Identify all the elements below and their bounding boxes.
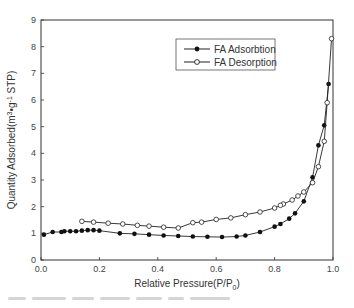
filled-circle-marker-icon bbox=[80, 228, 85, 233]
filled-circle-marker-icon bbox=[195, 47, 200, 52]
y-tick-label: 7 bbox=[31, 68, 36, 78]
filled-circle-marker-icon bbox=[302, 199, 307, 204]
open-circle-marker-icon bbox=[243, 212, 248, 217]
y-tick-label: 8 bbox=[31, 42, 36, 52]
open-circle-marker-icon bbox=[161, 225, 166, 230]
y-tick-label: 3 bbox=[31, 175, 36, 185]
filled-circle-marker-icon bbox=[205, 235, 210, 240]
filled-circle-marker-icon bbox=[272, 224, 277, 229]
x-tick-label: 0.2 bbox=[93, 264, 106, 274]
x-tick-label: 0.4 bbox=[152, 264, 165, 274]
filled-circle-marker-icon bbox=[147, 232, 152, 237]
filled-circle-marker-icon bbox=[258, 230, 263, 235]
filled-circle-marker-icon bbox=[316, 143, 321, 148]
filled-circle-marker-icon bbox=[243, 233, 248, 238]
cropped-caption-fragment bbox=[8, 297, 248, 302]
y-tick-label: 5 bbox=[31, 122, 36, 132]
filled-circle-marker-icon bbox=[293, 211, 298, 216]
y-tick-label: 1 bbox=[31, 228, 36, 238]
filled-circle-marker-icon bbox=[97, 228, 102, 233]
adsorption-line bbox=[44, 84, 329, 237]
filled-circle-marker-icon bbox=[176, 234, 181, 239]
filled-circle-marker-icon bbox=[161, 233, 166, 238]
y-tick-label: 6 bbox=[31, 95, 36, 105]
y-tick-label: 2 bbox=[31, 202, 36, 212]
open-circle-marker-icon bbox=[316, 164, 321, 169]
open-circle-marker-icon bbox=[120, 222, 125, 227]
legend-label-desorption: FA Desorption bbox=[214, 57, 277, 68]
open-circle-marker-icon bbox=[296, 194, 301, 199]
legend-label-adsorption: FA Adsorbtion bbox=[214, 44, 276, 55]
x-axis-title: Relative Pressure(P/P0) bbox=[134, 278, 240, 291]
legend: FA Adsorbtion FA Desorption bbox=[176, 39, 277, 70]
open-circle-marker-icon bbox=[147, 224, 152, 229]
open-circle-marker-icon bbox=[214, 217, 219, 222]
open-circle-marker-icon bbox=[290, 198, 295, 203]
filled-circle-marker-icon bbox=[85, 228, 90, 233]
filled-circle-marker-icon bbox=[118, 231, 123, 236]
x-tick-label: 0.6 bbox=[210, 264, 223, 274]
open-circle-marker-icon bbox=[176, 226, 181, 231]
open-circle-marker-icon bbox=[329, 36, 334, 41]
open-circle-marker-icon bbox=[80, 219, 85, 224]
filled-circle-marker-icon bbox=[132, 232, 137, 237]
x-tick-label: 1.0 bbox=[327, 264, 340, 274]
open-circle-marker-icon bbox=[322, 139, 327, 144]
filled-circle-marker-icon bbox=[68, 229, 73, 234]
y-axis-title: Quantity Adsorbed(m3•g-1 STP) bbox=[6, 71, 17, 210]
y-axis: 0123456789 bbox=[31, 15, 44, 265]
open-circle-marker-icon bbox=[258, 210, 263, 215]
filled-circle-marker-icon bbox=[42, 232, 47, 237]
open-circle-marker-icon bbox=[91, 220, 96, 225]
open-circle-marker-icon bbox=[229, 216, 234, 221]
open-circle-marker-icon bbox=[272, 206, 277, 211]
filled-circle-marker-icon bbox=[287, 216, 292, 221]
filled-circle-marker-icon bbox=[234, 234, 239, 239]
open-circle-marker-icon bbox=[325, 100, 330, 105]
open-circle-marker-icon bbox=[199, 220, 204, 225]
open-circle-marker-icon bbox=[310, 180, 315, 185]
filled-circle-marker-icon bbox=[91, 228, 96, 233]
y-tick-label: 4 bbox=[31, 148, 36, 158]
open-circle-marker-icon bbox=[135, 223, 140, 228]
open-circle-marker-icon bbox=[302, 190, 307, 195]
y-tick-label: 9 bbox=[31, 15, 36, 25]
open-circle-marker-icon bbox=[278, 203, 283, 208]
open-circle-marker-icon bbox=[106, 221, 111, 226]
filled-circle-marker-icon bbox=[74, 229, 79, 234]
x-tick-label: 0.0 bbox=[35, 264, 48, 274]
filled-circle-marker-icon bbox=[220, 235, 225, 240]
filled-circle-marker-icon bbox=[278, 222, 283, 227]
filled-circle-marker-icon bbox=[191, 234, 196, 239]
open-circle-marker-icon bbox=[195, 60, 200, 65]
filled-circle-marker-icon bbox=[50, 230, 55, 235]
x-tick-label: 0.8 bbox=[268, 264, 281, 274]
isotherm-chart: 0123456789 0.00.20.40.60.81.0 FA Adsorbt… bbox=[0, 0, 354, 308]
filled-circle-marker-icon bbox=[62, 229, 67, 234]
open-circle-marker-icon bbox=[191, 220, 196, 225]
